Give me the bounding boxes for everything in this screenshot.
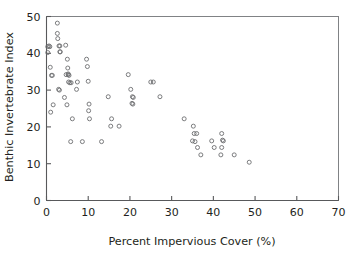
x-tick-label: 60 (290, 206, 304, 219)
x-tick-label: 10 (81, 206, 95, 219)
x-tick-label: 50 (248, 206, 262, 219)
y-tick-label: 0 (34, 195, 41, 208)
x-tick-label: 20 (123, 206, 137, 219)
chart-canvas: 01020304050 010203040506070 Benthic Inve… (0, 0, 358, 254)
y-axis-title: Benthic Invertebrate Index (3, 32, 16, 182)
y-tick-label: 20 (27, 121, 41, 134)
y-tick-label: 30 (27, 84, 41, 97)
x-axis-title: Percent Impervious Cover (%) (108, 235, 275, 248)
x-tick-label: 0 (43, 206, 50, 219)
y-tick-label: 40 (27, 47, 41, 60)
y-tick-label: 10 (27, 158, 41, 171)
y-tick-label: 50 (27, 11, 41, 24)
x-tick-label: 70 (332, 206, 346, 219)
x-tick-label: 40 (206, 206, 220, 219)
scatter-plot-figure: 01020304050 010203040506070 Benthic Inve… (0, 0, 358, 254)
chart-background (0, 0, 358, 254)
x-tick-label: 30 (165, 206, 179, 219)
